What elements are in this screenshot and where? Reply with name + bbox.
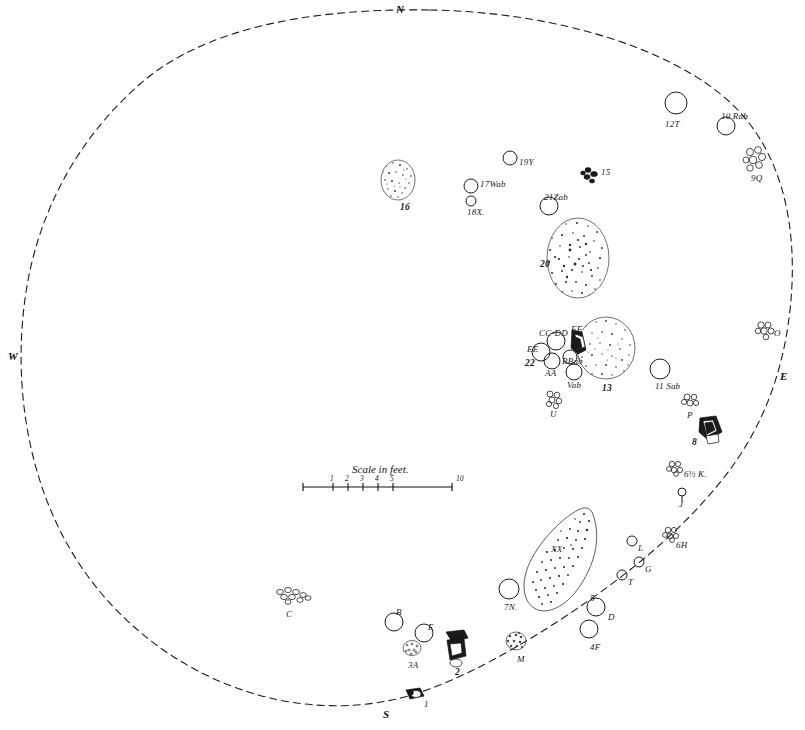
circle-17Wab (464, 179, 478, 193)
feature-label-f16: 16 (400, 203, 410, 213)
feature-circles (385, 92, 735, 642)
feature-label-fM: M (517, 655, 525, 664)
feature-label-fG: G (645, 565, 652, 574)
scale-bar (303, 483, 452, 491)
feature-label-fB: B (396, 608, 402, 617)
feature-label-f7n: 7N. (504, 603, 517, 612)
feature-label-fD: D (608, 613, 615, 622)
circle-T (617, 570, 627, 580)
scale-tick-2: 2 (345, 474, 349, 483)
feature-label-f13: 13 (602, 384, 612, 394)
feature-label-f4f: 4F (590, 643, 600, 652)
feature-shape-3A (403, 641, 421, 656)
feature-label-f8: 8 (692, 438, 697, 448)
circle-L (627, 536, 637, 546)
circle-18X (466, 196, 476, 206)
scale-tick-10: 10 (456, 474, 464, 483)
feature-label-f21: 21Zab (544, 193, 568, 202)
feature-shape-XX (524, 508, 597, 611)
feature-label-f17: 17Wab (480, 180, 506, 189)
feature-label-fL: L (638, 544, 643, 553)
feature-label-fU: U (550, 410, 557, 419)
feature-label-fccdd: CC-DD (539, 329, 568, 338)
feature-label-fE: E (428, 623, 434, 632)
circle-J (678, 488, 686, 496)
scale-tick-5: 5 (390, 474, 394, 483)
feature-label-fee: EE (527, 345, 538, 354)
feature-label-fbbab: BBab (562, 357, 583, 366)
circle-7N (499, 579, 519, 599)
feature-label-fT: T (628, 578, 633, 587)
feature-shape-M (506, 632, 526, 651)
circle-11Sab (650, 359, 670, 379)
circle-Vab (566, 364, 582, 380)
feature-label-f12t: 12T (665, 120, 680, 129)
plan-drawing (0, 0, 805, 730)
feature-label-f65k: 6½ K. (684, 470, 707, 479)
circle-12T (665, 92, 687, 114)
feature-label-f19y: 19Y (519, 158, 534, 167)
circle-4F (580, 620, 598, 638)
feature-label-faa: AA (545, 369, 556, 378)
feature-label-f6h: 6H (676, 541, 687, 550)
feature-label-fvab: Vab (567, 381, 581, 390)
compass-west: W (8, 350, 18, 362)
feature-label-f5: 5 (590, 594, 595, 603)
feature-shape-2 (446, 630, 468, 667)
scale-tick-4: 4 (375, 474, 379, 483)
feature-shape-U (546, 391, 561, 409)
feature-label-f18x: 18X. (467, 208, 485, 217)
scale-tick-1: 1 (330, 474, 334, 483)
feature-shape-8 (699, 416, 722, 444)
feature-label-fO: O (774, 329, 781, 338)
feature-shape-1 (406, 688, 424, 699)
feature-label-fC: C (286, 610, 292, 619)
feature-label-f10: 10 Rab (721, 112, 748, 121)
circle-AA (544, 353, 560, 369)
feature-shape-16 (381, 160, 415, 200)
feature-shape-6half-K (667, 461, 683, 476)
feature-label-f9q: 9Q (751, 174, 762, 183)
feature-label-f15: 15 (601, 168, 610, 177)
compass-north: N (396, 3, 404, 15)
feature-shape-C (277, 587, 311, 604)
feature-label-f11: 11 Sab (655, 382, 680, 391)
circle-19Y (503, 151, 517, 165)
feature-label-f3a: 3A (408, 661, 418, 670)
feature-shape-20 (547, 218, 609, 298)
feature-label-fP: P (687, 411, 693, 420)
feature-shape-9Q (743, 147, 766, 172)
feature-label-fJ: J (679, 500, 683, 509)
feature-label-f1: 1 (424, 700, 429, 709)
feature-label-fff: FF (571, 325, 582, 334)
feature-shape-O (755, 322, 774, 340)
scale-tick-3: 3 (360, 474, 364, 483)
feature-label-fxx: XX (551, 545, 562, 554)
feature-shape-15 (581, 168, 598, 183)
feature-label-f22: 22 (525, 359, 535, 369)
site-plan-map: N S E W Scale in feet. 1 2 3 4 5 10 1619… (0, 0, 805, 730)
feature-shape-P (681, 394, 698, 406)
feature-label-f2: 2 (455, 668, 460, 678)
compass-south: S (383, 708, 389, 720)
compass-east: E (780, 370, 787, 382)
feature-label-f20: 20 (540, 260, 550, 270)
